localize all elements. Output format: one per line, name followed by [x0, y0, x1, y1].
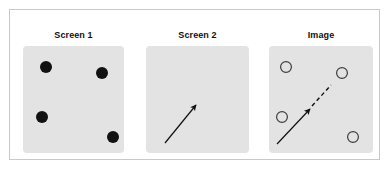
marker-filled-dot — [107, 131, 119, 143]
marker-filled-dot — [40, 61, 52, 73]
figure-frame: Screen 1 Screen 2 Image — [9, 9, 380, 160]
panel-graphics-screen1 — [23, 46, 124, 153]
arrow-solid — [165, 105, 196, 143]
panel-screen2: Screen 2 — [146, 30, 249, 154]
marker-hollow-circle — [348, 132, 359, 143]
panel-title-screen2: Screen 2 — [146, 30, 249, 41]
panel-graphics-screen2 — [146, 46, 249, 153]
panel-image: Image — [269, 30, 373, 154]
panel-title-image: Image — [269, 30, 373, 41]
figure-root: Screen 1 Screen 2 Image — [0, 0, 392, 170]
arrow-solid — [277, 109, 310, 144]
panel-screen1: Screen 1 — [23, 30, 124, 154]
marker-hollow-circle — [281, 62, 292, 73]
marker-filled-dot — [96, 67, 108, 79]
panel-title-screen1: Screen 1 — [23, 30, 124, 41]
marker-hollow-circle — [337, 68, 348, 79]
marker-hollow-circle — [277, 112, 288, 123]
arrow-dashed — [312, 85, 331, 106]
marker-filled-dot — [36, 111, 48, 123]
panel-graphics-image — [269, 46, 373, 153]
